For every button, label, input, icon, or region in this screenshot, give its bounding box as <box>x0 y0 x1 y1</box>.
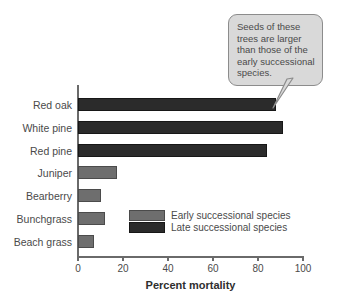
legend-label-late: Late successional species <box>171 222 287 233</box>
category-label-red-pine: Red pine <box>0 145 72 157</box>
category-label-red-oak: Red oak <box>0 99 72 111</box>
bar-fill <box>78 121 283 134</box>
x-axis-title: Percent mortality <box>78 279 303 291</box>
chart-legend: Early successional species Late successi… <box>129 209 291 233</box>
callout-line-3: than those of the <box>237 44 315 56</box>
bar-white-pine <box>78 121 283 134</box>
x-tick-label-40: 40 <box>162 263 173 274</box>
category-label-bunchgrass: Bunchgrass <box>0 213 72 225</box>
x-tick-80 <box>257 256 259 261</box>
x-tick-label-100: 100 <box>295 263 312 274</box>
x-tick-label-60: 60 <box>207 263 218 274</box>
callout-line-2: trees are larger <box>237 33 315 45</box>
bar-fill <box>78 235 94 248</box>
category-label-white-pine: White pine <box>0 122 72 134</box>
x-axis-line <box>77 256 303 258</box>
legend-item-late: Late successional species <box>129 221 291 233</box>
legend-item-early: Early successional species <box>129 209 291 221</box>
x-tick-label-20: 20 <box>117 263 128 274</box>
callout-line-5: species. <box>237 67 315 79</box>
bar-juniper <box>78 166 117 179</box>
x-tick-40 <box>167 256 169 261</box>
bar-fill <box>78 144 267 157</box>
bar-fill <box>78 212 105 225</box>
category-label-beach-grass: Beach grass <box>0 236 72 248</box>
legend-swatch-late-icon <box>129 222 165 233</box>
bar-fill <box>78 166 117 179</box>
category-label-juniper: Juniper <box>0 167 72 179</box>
x-tick-0 <box>77 256 79 261</box>
annotation-callout: Seeds of these trees are larger than tho… <box>228 14 323 86</box>
x-tick-label-0: 0 <box>75 263 81 274</box>
callout-line-4: early successional <box>237 56 315 68</box>
bar-bunchgrass <box>78 212 105 225</box>
x-tick-100 <box>302 256 304 261</box>
legend-label-early: Early successional species <box>171 210 291 221</box>
x-tick-label-80: 80 <box>252 263 263 274</box>
legend-swatch-early-icon <box>129 210 165 221</box>
bar-fill <box>78 189 101 202</box>
bar-red-pine <box>78 144 267 157</box>
bar-chart: 020406080100 Red oakWhite pineRed pineJu… <box>0 0 339 306</box>
bar-fill <box>78 98 276 111</box>
x-tick-60 <box>212 256 214 261</box>
bar-bearberry <box>78 189 101 202</box>
category-label-bearberry: Bearberry <box>0 190 72 202</box>
bar-red-oak <box>78 98 276 111</box>
callout-line-1: Seeds of these <box>237 21 315 33</box>
x-tick-20 <box>122 256 124 261</box>
bar-beach-grass <box>78 235 94 248</box>
